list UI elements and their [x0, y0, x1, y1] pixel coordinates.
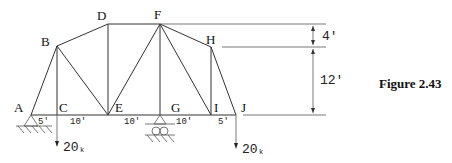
node-label-f: F	[154, 7, 161, 22]
load-value: 20	[242, 142, 258, 157]
load-unit: k	[259, 148, 263, 156]
span-eg: 10'	[124, 117, 140, 127]
height-4ft: 4'	[322, 29, 338, 44]
node-label-h: H	[206, 32, 215, 47]
node-label-i: I	[214, 100, 218, 115]
span-ce: 10'	[70, 117, 86, 127]
load-j: 20 k	[234, 115, 263, 157]
arrow-down-icon	[55, 141, 59, 147]
height-12ft: 12'	[320, 73, 343, 88]
arrow-down-icon	[234, 143, 238, 149]
truss-diagram: A B C D E F G H I J 5' 10' 10' 10' 5' 4'…	[0, 0, 452, 163]
node-label-e: E	[115, 100, 123, 115]
roller-support-icon	[145, 115, 175, 142]
node-label-g: G	[171, 100, 180, 115]
node-label-j: J	[241, 100, 246, 115]
node-label-b: B	[41, 34, 50, 49]
figure-caption: Figure 2.43	[379, 76, 442, 91]
span-ac: 5'	[38, 117, 49, 127]
load-value: 20	[63, 140, 79, 155]
node-label-c: C	[59, 100, 68, 115]
load-unit: k	[80, 146, 84, 154]
span-ij: 5'	[218, 117, 229, 127]
span-dimensions: 5' 10' 10' 10' 5'	[38, 117, 229, 127]
node-label-d: D	[97, 8, 106, 23]
node-label-a: A	[14, 100, 24, 115]
span-gi: 10'	[176, 117, 192, 127]
